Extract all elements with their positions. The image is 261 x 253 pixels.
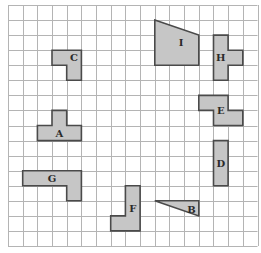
shape-label-b: B bbox=[187, 204, 195, 215]
shape-label-f: F bbox=[129, 203, 136, 214]
shape-grid-diagram: IHCEADGFB bbox=[0, 0, 261, 253]
shape-label-h: H bbox=[216, 52, 225, 63]
shape-label-i: I bbox=[179, 37, 184, 48]
shape-label-g: G bbox=[48, 173, 57, 184]
shape-label-e: E bbox=[217, 105, 225, 116]
shape-label-d: D bbox=[216, 158, 225, 169]
shape-i bbox=[155, 20, 199, 65]
shape-label-c: C bbox=[70, 52, 78, 63]
shape-label-a: A bbox=[55, 128, 64, 139]
shapes bbox=[23, 20, 243, 231]
